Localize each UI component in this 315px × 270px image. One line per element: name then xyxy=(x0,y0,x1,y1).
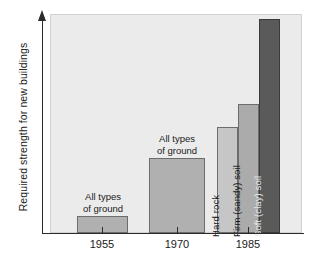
bar-1985-firm-sandy-soil-caption: Firm (sandy) soil xyxy=(231,165,242,237)
bar-1970-all-types xyxy=(149,158,205,233)
bar-1955-caption: All types of ground xyxy=(66,191,140,214)
y-axis-label: Required strength for new buildings xyxy=(15,12,31,242)
x-axis-tick-1970 xyxy=(177,227,178,233)
x-axis-tick-1955 xyxy=(102,227,103,233)
x-axis-ticklabel-1985: 1985 xyxy=(218,238,278,250)
bar-1970-caption: All types of ground xyxy=(140,133,214,156)
x-axis-ticklabel-1955: 1955 xyxy=(72,238,132,250)
bar-chart-figure: Required strength for new buildings All … xyxy=(0,0,315,270)
y-axis-line xyxy=(42,19,43,234)
x-axis-tick-1985 xyxy=(248,227,249,233)
bar-1985-hard-rock-caption: Hard rock xyxy=(210,195,221,237)
x-axis-ticklabel-1970: 1970 xyxy=(147,238,207,250)
x-axis-line xyxy=(42,233,304,234)
bar-1985-soft-clay-soil-caption: Soft (clay) soil xyxy=(252,176,263,237)
